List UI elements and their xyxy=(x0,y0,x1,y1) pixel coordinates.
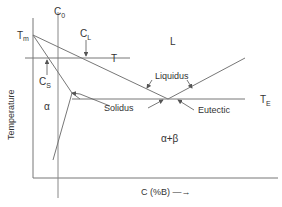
c0-label: C0 xyxy=(54,6,65,19)
liquidus-arrow-right-icon xyxy=(187,80,192,88)
eutectic-arrow-icon xyxy=(178,100,194,110)
solidus-arrow-right-icon xyxy=(148,100,163,108)
liquidus-label: Liquidus xyxy=(155,71,189,81)
liquidus-left xyxy=(33,35,168,99)
solidus-label: Solidus xyxy=(104,103,134,113)
solvus-line xyxy=(53,93,72,160)
phase-diagram: C0 Tm CL CS T TE L α α+β Liquidus Solidu… xyxy=(0,0,282,207)
alpha-region-label: α xyxy=(44,101,50,112)
alpha-beta-region-label: α+β xyxy=(161,133,179,144)
te-label: TE xyxy=(260,94,271,107)
t-label: T xyxy=(111,53,117,64)
liquidus-arrow-left-icon xyxy=(147,80,152,88)
eutectic-label: Eutectic xyxy=(198,105,231,115)
cs-label: CS xyxy=(39,76,51,89)
liquid-region-label: L xyxy=(170,36,176,47)
y-axis-label: Temperature xyxy=(6,89,16,140)
cl-label: CL xyxy=(80,28,91,41)
tm-label: Tm xyxy=(17,30,29,42)
x-axis-label: C (%B) —→ xyxy=(141,187,191,197)
